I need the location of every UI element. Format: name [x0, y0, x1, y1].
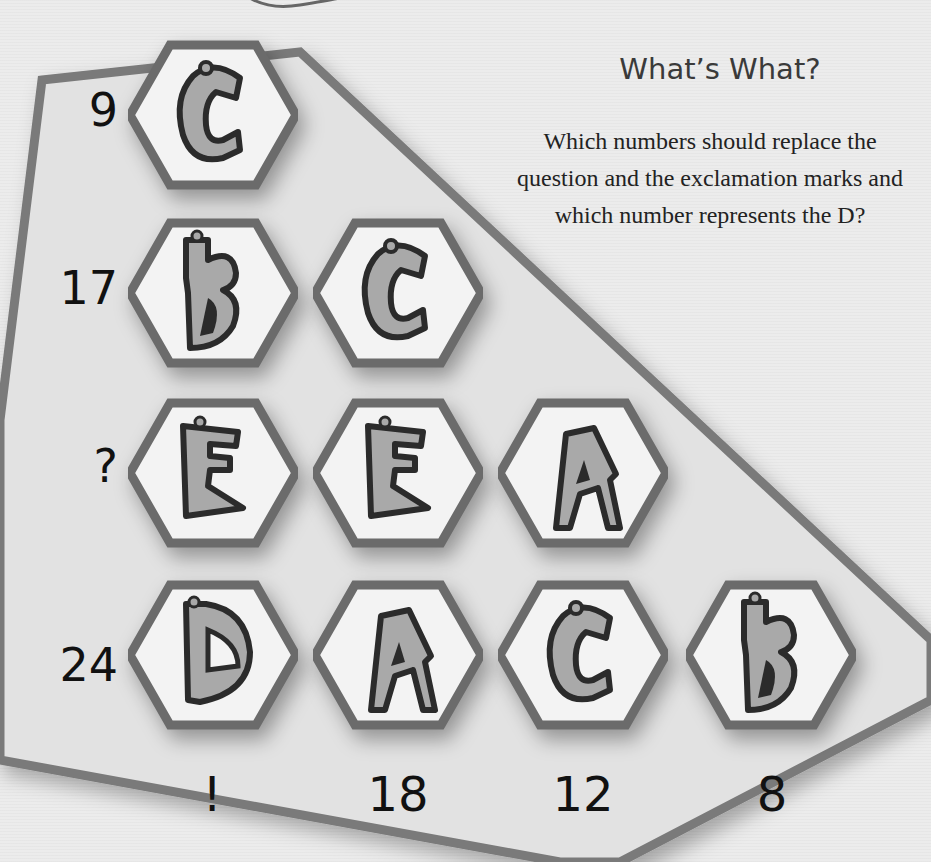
- tile-letter-b: [686, 580, 856, 730]
- col-label-4: 8: [722, 770, 822, 818]
- row-label-2: 17: [28, 265, 118, 311]
- tile-letter-c: [313, 218, 483, 368]
- tile-letter-a: [498, 398, 668, 548]
- tile-letter-a: [313, 580, 483, 730]
- tile-letter-c: [128, 40, 298, 190]
- row-label-4: 24: [28, 642, 118, 688]
- row-label-1: 9: [28, 87, 118, 133]
- col-label-3: 12: [533, 770, 633, 818]
- puzzle-question: Which numbers should replace the questio…: [510, 123, 910, 234]
- tile-letter-e: [313, 398, 483, 548]
- tile-letter-e: [128, 398, 298, 548]
- col-label-2: 18: [348, 770, 448, 818]
- tile-letter-d: [128, 580, 298, 730]
- row-label-3: ?: [28, 443, 118, 489]
- col-label-1: !: [162, 770, 262, 818]
- tile-letter-b: [128, 218, 298, 368]
- puzzle-title: What’s What?: [560, 52, 880, 86]
- tile-letter-c: [498, 580, 668, 730]
